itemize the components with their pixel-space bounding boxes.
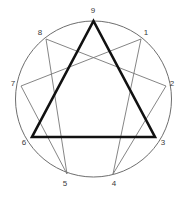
- point-label-8: 8: [35, 29, 45, 37]
- enneagram-figure: 123456789: [0, 0, 187, 197]
- point-label-2: 2: [167, 80, 177, 88]
- hexad-path: [21, 39, 166, 174]
- point-label-7: 7: [8, 80, 18, 88]
- point-label-9: 9: [88, 7, 98, 15]
- point-label-4: 4: [109, 180, 119, 188]
- enneagram-svg: [0, 0, 187, 197]
- inner-triangle: [32, 21, 155, 137]
- point-label-3: 3: [158, 139, 168, 147]
- point-label-1: 1: [141, 29, 151, 37]
- point-label-5: 5: [60, 180, 70, 188]
- point-label-6: 6: [19, 139, 29, 147]
- outer-circle: [16, 21, 172, 177]
